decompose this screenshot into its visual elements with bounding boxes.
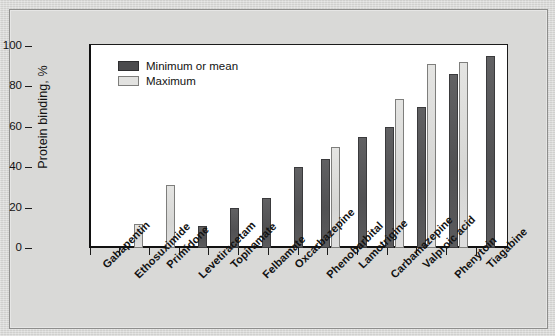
legend-label-minimum: Minimum or mean bbox=[146, 60, 238, 72]
legend-item-maximum: Maximum bbox=[118, 75, 238, 87]
chart-frame: Protein binding, % 020406080100 Gabapent… bbox=[9, 9, 548, 329]
legend: Minimum or mean Maximum bbox=[118, 60, 238, 90]
bar-category bbox=[410, 46, 442, 248]
bar-min bbox=[486, 56, 495, 248]
y-tick-mark bbox=[25, 208, 32, 209]
y-tick-mark bbox=[25, 46, 32, 47]
y-tick-label: 20 bbox=[0, 202, 22, 214]
legend-item-minimum: Minimum or mean bbox=[118, 60, 238, 72]
x-axis-labels: GabapentinEthosuximidePrimidoneLevetirac… bbox=[10, 256, 555, 336]
y-tick-label: 60 bbox=[0, 121, 22, 133]
figure-panel: Protein binding, % 020406080100 Gabapent… bbox=[0, 0, 555, 336]
bar-category bbox=[282, 46, 314, 248]
bar-max bbox=[427, 64, 436, 248]
y-tick-label: 100 bbox=[0, 40, 22, 52]
y-tick-label: 80 bbox=[0, 80, 22, 92]
y-tick-label: 40 bbox=[0, 161, 22, 173]
y-tick-mark bbox=[25, 248, 32, 249]
bar-min bbox=[417, 107, 426, 248]
light-square-swatch-icon bbox=[118, 76, 139, 86]
y-axis-title: Protein binding, % bbox=[36, 22, 50, 212]
y-tick-mark bbox=[25, 86, 32, 87]
bar-category bbox=[474, 46, 506, 248]
y-tick-mark bbox=[25, 167, 32, 168]
bar-category bbox=[378, 46, 410, 248]
bar-category bbox=[250, 46, 282, 248]
y-tick-mark bbox=[25, 127, 32, 128]
y-tick-label: 0 bbox=[0, 242, 22, 254]
dark-square-swatch-icon bbox=[118, 61, 139, 71]
legend-label-maximum: Maximum bbox=[146, 75, 196, 87]
